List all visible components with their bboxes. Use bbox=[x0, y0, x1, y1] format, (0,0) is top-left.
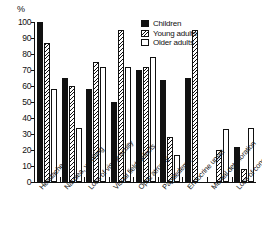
y-axis-unit-label: % bbox=[17, 4, 25, 14]
y-axis-tick-mark bbox=[31, 102, 34, 103]
bar-group bbox=[60, 22, 85, 182]
y-axis-tick-label: 70 bbox=[22, 66, 31, 75]
y-axis-tick-label: 50 bbox=[22, 98, 31, 107]
bar bbox=[44, 43, 50, 182]
legend-item-older-adults: Older adults bbox=[141, 38, 197, 48]
bar bbox=[93, 62, 99, 182]
bar-chart-figure: % 0102030405060708090100 HeadacheNausea,… bbox=[0, 0, 262, 243]
y-axis-tick-label: 10 bbox=[22, 162, 31, 171]
y-axis-tick-label: 100 bbox=[18, 18, 31, 27]
legend-label-young-adults: Young adults bbox=[153, 29, 197, 39]
y-axis-tick-mark bbox=[31, 150, 34, 151]
legend-item-children: Children bbox=[141, 19, 197, 29]
legend-swatch-older-adults-icon bbox=[141, 39, 149, 46]
x-axis-labels: HeadacheNausea, vomitingLoss of visual a… bbox=[0, 183, 262, 243]
chart-legend: Children Young adults Older adults bbox=[141, 19, 197, 48]
y-axis-tick-mark bbox=[31, 86, 34, 87]
y-axis-tick-mark bbox=[31, 70, 34, 71]
y-axis-tick-mark bbox=[31, 134, 34, 135]
legend-item-young-adults: Young adults bbox=[141, 29, 197, 39]
y-axis-tick-mark bbox=[31, 22, 34, 23]
y-axis-tick-mark bbox=[31, 166, 34, 167]
y-axis-tick-label: 40 bbox=[22, 114, 31, 123]
y-axis-tick-mark bbox=[31, 54, 34, 55]
y-axis-tick-mark bbox=[31, 38, 34, 39]
y-axis-tick-mark bbox=[31, 118, 34, 119]
bar bbox=[69, 86, 75, 182]
legend-label-children: Children bbox=[153, 19, 181, 29]
y-axis-tick-label: 80 bbox=[22, 50, 31, 59]
bar-group bbox=[35, 22, 60, 182]
y-axis-tick-label: 20 bbox=[22, 146, 31, 155]
legend-label-older-adults: Older adults bbox=[153, 38, 194, 48]
bar bbox=[192, 30, 198, 182]
y-axis-tick-label: 60 bbox=[22, 82, 31, 91]
legend-swatch-young-adults-icon bbox=[141, 30, 149, 37]
bar bbox=[37, 22, 43, 182]
bar bbox=[143, 67, 149, 182]
legend-swatch-children-icon bbox=[141, 20, 149, 27]
y-axis-tick-label: 30 bbox=[22, 130, 31, 139]
y-axis-tick-label: 90 bbox=[22, 34, 31, 43]
